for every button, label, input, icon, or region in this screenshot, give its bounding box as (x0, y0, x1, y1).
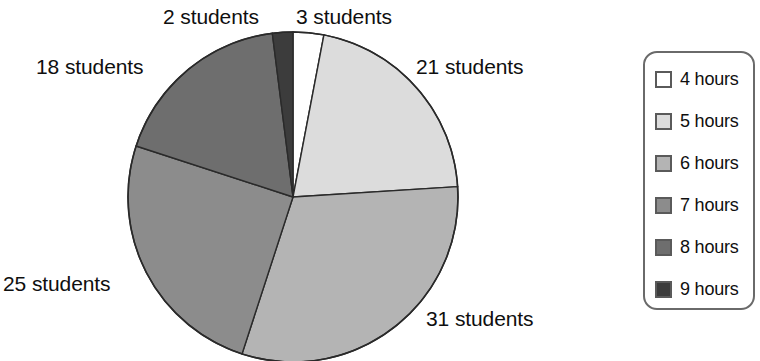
legend-item-8-hours[interactable]: 8 hours (655, 227, 753, 268)
slice-label-7-hours: 25 students (3, 273, 110, 295)
legend-swatch-icon (655, 113, 672, 130)
legend-item-9-hours[interactable]: 9 hours (655, 269, 753, 310)
slice-label-6-hours: 31 students (426, 308, 533, 330)
legend-item-6-hours[interactable]: 6 hours (655, 143, 753, 184)
chart-canvas: 2 students 3 students 18 students 21 stu… (0, 0, 760, 361)
legend-item-label: 4 hours (680, 69, 739, 90)
pie-slice-group (128, 32, 458, 361)
legend-item-label: 6 hours (680, 153, 739, 174)
slice-label-9-hours: 2 students (163, 6, 259, 28)
legend-swatch-icon (655, 71, 672, 88)
legend-box: 4 hours5 hours6 hours7 hours8 hours9 hou… (643, 51, 755, 310)
slice-label-8-hours: 18 students (36, 56, 143, 78)
slice-label-5-hours: 21 students (416, 56, 523, 78)
legend-swatch-icon (655, 281, 672, 298)
legend-item-label: 7 hours (680, 195, 739, 216)
legend-item-7-hours[interactable]: 7 hours (655, 185, 753, 226)
legend-item-label: 8 hours (680, 237, 739, 258)
legend-item-5-hours[interactable]: 5 hours (655, 101, 753, 142)
legend-item-label: 9 hours (680, 279, 739, 300)
legend-swatch-icon (655, 155, 672, 172)
legend-item-4-hours[interactable]: 4 hours (655, 59, 753, 100)
slice-label-4-hours: 3 students (296, 6, 392, 28)
legend-swatch-icon (655, 197, 672, 214)
legend-swatch-icon (655, 239, 672, 256)
legend-item-list: 4 hours5 hours6 hours7 hours8 hours9 hou… (655, 58, 753, 308)
legend-item-label: 5 hours (680, 111, 739, 132)
